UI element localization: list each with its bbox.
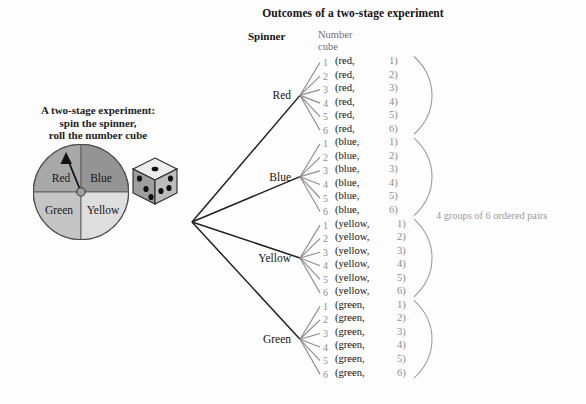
figure-root: Outcomes of a two-stage experiment Spinn…: [0, 0, 586, 404]
outcome-row: (yellow,6): [335, 284, 413, 298]
outcome-color: (blue,: [335, 149, 359, 163]
outcome-color: (green,: [335, 325, 365, 339]
outcome-color: (green,: [335, 298, 365, 312]
outcome-color: (red,: [335, 95, 355, 109]
outcome-color: (red,: [335, 108, 355, 122]
outcome-number: 4): [397, 257, 406, 271]
outcome-color: (yellow,: [335, 284, 369, 298]
stage1-branch-blue: [192, 177, 300, 222]
outcome-row: (yellow,5): [335, 271, 413, 285]
outcome-color: (yellow,: [335, 271, 369, 285]
outcome-number: 4): [389, 176, 398, 190]
group-bracket: [414, 219, 432, 297]
cube-number: 5: [323, 355, 328, 366]
outcome-row: (blue,4): [335, 176, 413, 190]
cube-number: 5: [323, 193, 328, 204]
outcome-color: (blue,: [335, 135, 359, 149]
outcome-row: (green,3): [335, 325, 413, 339]
cube-number: 6: [323, 125, 328, 136]
outcome-color: (yellow,: [335, 244, 369, 258]
outcome-row: (blue,1): [335, 135, 413, 149]
outcome-group-brackets: [414, 57, 432, 379]
outcome-color: (green,: [335, 338, 365, 352]
cube-number: 6: [323, 206, 328, 217]
tree-stage2-branches: [300, 63, 320, 375]
outcome-number: 1): [397, 298, 406, 312]
outcome-number: 2): [389, 149, 398, 163]
outcome-color: (blue,: [335, 162, 359, 176]
groups-annotation: 4 groups of 6 ordered pairs: [436, 210, 547, 221]
outcome-row: (red,2): [335, 68, 413, 82]
tree-cube-numbers: 123456123456123456123456: [323, 57, 328, 380]
outcome-row: (red,5): [335, 108, 413, 122]
outcome-row: (red,1): [335, 54, 413, 68]
outcome-color: (green,: [335, 311, 365, 325]
outcome-row: (blue,3): [335, 162, 413, 176]
cube-number: 3: [323, 84, 328, 95]
outcome-number: 5): [389, 189, 398, 203]
outcome-row: (yellow,4): [335, 257, 413, 271]
outcome-number: 2): [389, 68, 398, 82]
outcome-list: (red,1)(red,2)(red,3)(red,4)(red,5)(red,…: [335, 54, 413, 379]
outcome-row: (yellow,1): [335, 217, 413, 231]
outcome-color: (red,: [335, 81, 355, 95]
outcome-color: (blue,: [335, 189, 359, 203]
tree-node-label-yellow: Yellow: [258, 252, 291, 264]
outcome-row: (green,6): [335, 366, 413, 380]
stage1-branch-red: [192, 95, 300, 222]
cube-number: 2: [323, 152, 328, 163]
tree-node-label-blue: Blue: [269, 171, 291, 183]
outcome-row: (green,1): [335, 298, 413, 312]
outcome-number: 6): [397, 366, 406, 380]
outcome-row: (green,4): [335, 338, 413, 352]
outcome-number: 6): [389, 203, 398, 217]
cube-number: 1: [323, 220, 328, 231]
outcome-number: 3): [397, 244, 406, 258]
outcome-number: 4): [389, 95, 398, 109]
outcome-number: 5): [397, 271, 406, 285]
outcome-number: 5): [397, 352, 406, 366]
outcome-color: (red,: [335, 54, 355, 68]
outcome-number: 5): [389, 108, 398, 122]
outcome-row: (green,2): [335, 311, 413, 325]
tree-node-labels: RedBlueYellowGreen: [258, 89, 291, 345]
outcome-number: 1): [389, 135, 398, 149]
cube-number: 1: [323, 301, 328, 312]
outcome-color: (blue,: [335, 176, 359, 190]
tree-node-label-green: Green: [263, 333, 291, 345]
group-bracket: [414, 300, 432, 378]
cube-number: 6: [323, 369, 328, 380]
outcome-color: (yellow,: [335, 257, 369, 271]
outcome-number: 3): [397, 325, 406, 339]
outcome-number: 1): [389, 54, 398, 68]
outcome-color: (green,: [335, 366, 365, 380]
tree-stage1-branches: [192, 95, 300, 339]
group-bracket: [414, 138, 432, 216]
outcome-number: 3): [389, 81, 398, 95]
cube-number: 2: [323, 71, 328, 82]
outcome-number: 1): [397, 217, 406, 231]
outcome-row: (blue,2): [335, 149, 413, 163]
outcome-row: (red,4): [335, 95, 413, 109]
cube-number: 3: [323, 165, 328, 176]
outcome-number: 2): [397, 230, 406, 244]
cube-number: 4: [323, 179, 328, 190]
cube-number: 5: [323, 111, 328, 122]
outcome-color: (blue,: [335, 203, 359, 217]
outcome-row: (green,5): [335, 352, 413, 366]
cube-number: 6: [323, 287, 328, 298]
outcome-row: (red,3): [335, 81, 413, 95]
cube-number: 2: [323, 233, 328, 244]
tree-node-label-red: Red: [272, 89, 291, 101]
outcome-color: (yellow,: [335, 217, 369, 231]
cube-number: 2: [323, 314, 328, 325]
outcome-row: (yellow,3): [335, 244, 413, 258]
probability-tree: RedBlueYellowGreen 123456123456123456123…: [0, 0, 586, 404]
outcome-color: (green,: [335, 352, 365, 366]
outcome-row: (blue,6): [335, 203, 413, 217]
outcome-row: (yellow,2): [335, 230, 413, 244]
cube-number: 4: [323, 342, 328, 353]
cube-number: 5: [323, 274, 328, 285]
outcome-color: (yellow,: [335, 230, 369, 244]
cube-number: 3: [323, 328, 328, 339]
